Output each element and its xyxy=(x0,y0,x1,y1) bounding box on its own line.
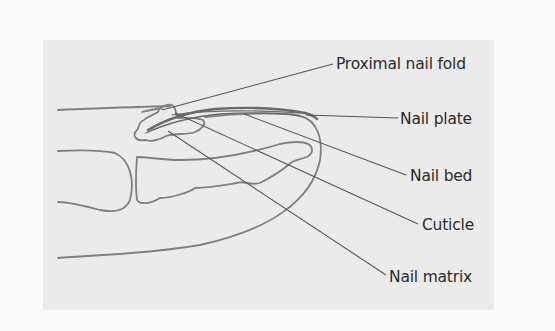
distal-phalanx xyxy=(136,142,312,203)
leader-nail-bed xyxy=(244,114,406,175)
leader-nail-matrix xyxy=(168,131,386,275)
middle-phalanx xyxy=(58,150,132,211)
proximal-nail-fold-tissue xyxy=(135,105,205,141)
finger-tip-outline xyxy=(58,114,321,259)
leader-cuticle xyxy=(175,113,418,224)
label-cuticle: Cuticle xyxy=(422,216,474,234)
label-nail-matrix: Nail matrix xyxy=(389,268,472,286)
leader-nail-plate xyxy=(306,115,398,118)
label-proximal-nail-fold: Proximal nail fold xyxy=(336,55,466,73)
leader-proximal-nail-fold xyxy=(162,64,333,110)
label-nail-bed: Nail bed xyxy=(410,167,472,185)
label-nail-plate: Nail plate xyxy=(400,110,472,128)
